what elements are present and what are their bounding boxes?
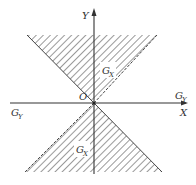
svg-text:Y: Y — [18, 113, 24, 121]
y-axis-arrow-icon — [92, 8, 97, 16]
svg-text:X: X — [108, 71, 115, 79]
upper-cone-region — [27, 35, 157, 103]
right-axis-region-label: G Y — [175, 90, 188, 104]
x-axis-label: X — [179, 107, 188, 118]
diagram-canvas: Y X O G X G X G Y G Y — [0, 0, 196, 185]
svg-text:X: X — [82, 150, 89, 158]
origin-label: O — [79, 91, 87, 102]
left-axis-region-label: G Y — [11, 107, 24, 121]
y-axis-label: Y — [82, 10, 90, 21]
origin-point — [92, 101, 95, 104]
